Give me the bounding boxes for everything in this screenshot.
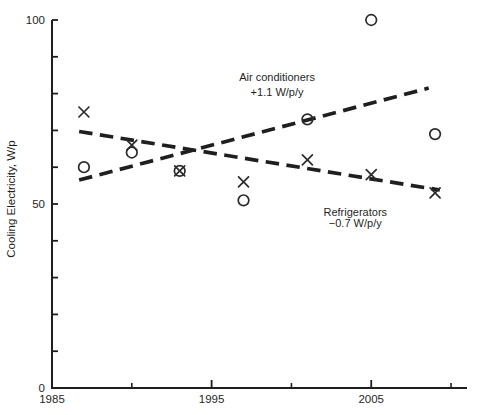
annotation-slope-refrigerators: −0.7 W/p/y bbox=[329, 217, 382, 229]
x-axis-tick-label: 1995 bbox=[199, 393, 225, 405]
x-axis-tick-label: 1985 bbox=[39, 393, 65, 405]
y-axis-tick-label: 50 bbox=[32, 198, 45, 210]
figure: 050100198519952005Cooling Electricity, W… bbox=[0, 0, 477, 415]
data-point-circle-air-conditioners bbox=[238, 195, 249, 206]
trend-line-refrigerators bbox=[79, 132, 440, 191]
annotation-slope-air-conditioners: +1.1 W/p/y bbox=[251, 86, 304, 98]
y-axis-title: Cooling Electricity, W/p bbox=[5, 140, 17, 257]
data-point-circle-air-conditioners bbox=[366, 15, 377, 26]
data-point-x-refrigerators bbox=[79, 107, 89, 117]
data-point-x-refrigerators bbox=[302, 155, 312, 165]
data-point-x-refrigerators bbox=[239, 177, 249, 187]
annotation-name-air-conditioners: Air conditioners bbox=[239, 71, 315, 83]
data-point-circle-air-conditioners bbox=[430, 129, 441, 140]
x-axis-tick-label: 2005 bbox=[358, 393, 384, 405]
trend-line-air-conditioners bbox=[79, 88, 429, 180]
data-point-circle-air-conditioners bbox=[79, 162, 90, 173]
y-axis-tick-label: 100 bbox=[26, 14, 45, 26]
data-point-x-refrigerators bbox=[175, 166, 185, 176]
chart-canvas: 050100198519952005Cooling Electricity, W… bbox=[0, 0, 477, 415]
